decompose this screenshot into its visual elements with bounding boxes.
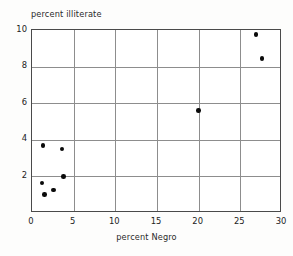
gridline-horizontal [32,67,280,68]
data-point [61,174,66,179]
y-tick-label: 8 [0,60,27,70]
data-point [254,32,259,37]
y-tick-label: 4 [0,133,27,143]
gridline-vertical [240,30,241,211]
gridline-vertical [115,30,116,211]
data-point [40,181,45,186]
scatter-plot-figure: percent illiterate 246810 051015202530 p… [0,0,293,256]
x-tick-label: 0 [16,216,46,226]
gridline-vertical [157,30,158,211]
x-tick-label: 20 [183,216,213,226]
x-tick-label: 30 [266,216,293,226]
gridline-horizontal [32,140,280,141]
data-point [42,192,47,197]
x-tick-label: 15 [141,216,171,226]
x-tick-label: 25 [224,216,254,226]
x-tick-label: 5 [58,216,88,226]
data-point [60,147,65,152]
gridline-vertical [199,30,200,211]
gridline-horizontal [32,176,280,177]
y-tick-label: 6 [0,97,27,107]
gridline-vertical [74,30,75,211]
gridline-horizontal [32,103,280,104]
y-tick-label: 10 [0,24,27,34]
data-point [196,108,201,113]
y-axis-title: percent illiterate [31,9,102,19]
data-point [260,56,265,61]
x-tick-label: 10 [99,216,129,226]
y-tick-label: 2 [0,170,27,180]
data-point [51,188,56,193]
x-axis-title: percent Negro [0,232,293,242]
data-point [41,143,46,148]
plot-area [31,29,281,212]
